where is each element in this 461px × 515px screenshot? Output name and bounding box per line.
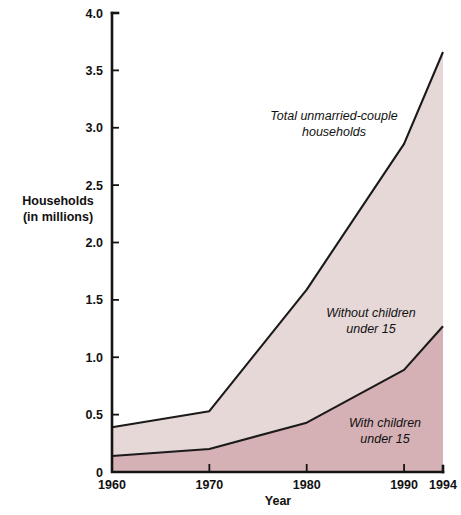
y-axis-title-line1: Households: [22, 194, 94, 208]
annotation-without-children-under-15-line1: Without children: [326, 306, 416, 320]
y-tick-label-2.5: 2.5: [86, 179, 103, 193]
x-tick-label-1970: 1970: [195, 478, 223, 492]
y-tick-label-4.0: 4.0: [86, 7, 103, 21]
y-tick-label-1.5: 1.5: [86, 293, 103, 307]
annotation-with-children-under-15-line1: With children: [349, 416, 421, 430]
annotation-without-children-under-15-line2: under 15: [346, 322, 395, 336]
unmarried-couple-households-area-chart: 00.51.01.52.02.53.03.54.0 19601970198019…: [0, 0, 461, 515]
y-axis-tick-labels: 00.51.01.52.02.53.03.54.0: [86, 7, 103, 480]
y-tick-label-2.0: 2.0: [86, 236, 103, 250]
annotation-with-children-under-15-line2: under 15: [360, 432, 409, 446]
annotation-total-unmarried-couple-households-line2: households: [302, 125, 366, 139]
y-tick-label-0.5: 0.5: [86, 408, 103, 422]
y-tick-label-3.0: 3.0: [86, 121, 103, 135]
annotation-total-unmarried-couple-households-line1: Total unmarried-couple: [270, 109, 397, 123]
x-tick-label-1994: 1994: [429, 478, 457, 492]
x-tick-label-1980: 1980: [293, 478, 321, 492]
x-axis-tick-labels: 19601970198019901994: [98, 478, 457, 492]
y-tick-label-3.5: 3.5: [86, 64, 103, 78]
chart-container: 00.51.01.52.02.53.03.54.0 19601970198019…: [0, 0, 461, 515]
y-axis-title-line2: (in millions): [23, 210, 93, 224]
y-tick-label-1.0: 1.0: [86, 351, 103, 365]
x-tick-label-1990: 1990: [390, 478, 418, 492]
x-tick-label-1960: 1960: [98, 478, 126, 492]
x-axis-title: Year: [265, 494, 292, 508]
